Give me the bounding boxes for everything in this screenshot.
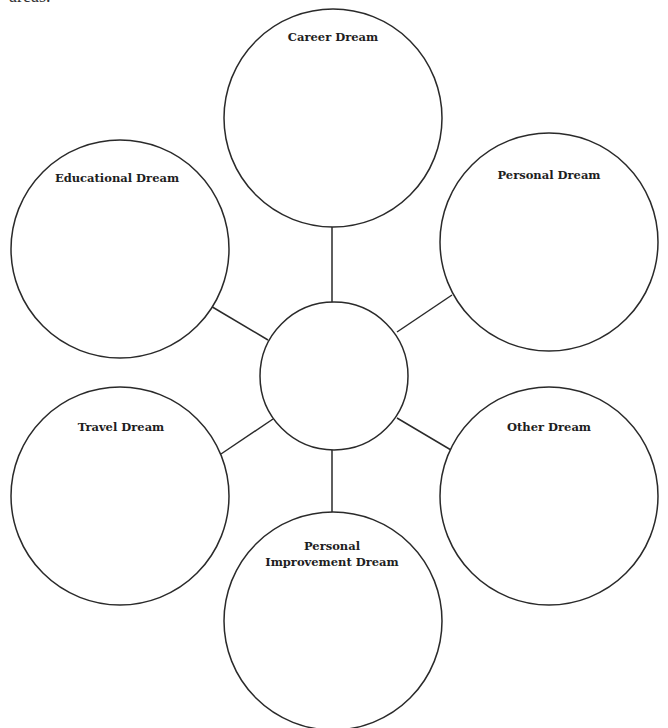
connector-personal — [397, 295, 452, 332]
travel-dream-label: Travel Dream — [78, 419, 165, 435]
connector-educational — [209, 305, 268, 340]
connector-other — [397, 418, 451, 450]
other-dream-label: Other Dream — [507, 419, 591, 435]
personal-improvement-label-line2: Improvement Dream — [265, 554, 398, 570]
personal-improvement-dream-label: Personal Improvement Dream — [265, 538, 398, 570]
educational-dream-label: Educational Dream — [55, 170, 179, 186]
center-bubble-area[interactable] — [260, 302, 408, 450]
personal-dream-area[interactable] — [440, 133, 658, 351]
personal-improvement-label-line1: Personal — [265, 538, 398, 554]
connector-travel — [221, 419, 273, 454]
career-dream-label: Career Dream — [288, 29, 378, 45]
personal-dream-label: Personal Dream — [497, 167, 600, 183]
